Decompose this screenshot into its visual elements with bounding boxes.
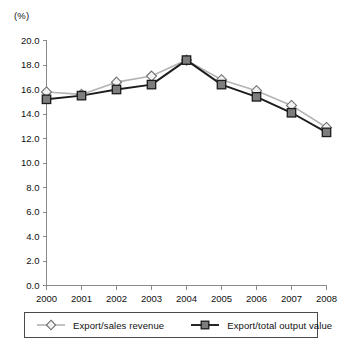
legend-marker-square-icon <box>190 318 220 332</box>
x-tick-label: 2005 <box>211 293 232 304</box>
y-axis-tick-marks <box>43 41 47 286</box>
line-chart-plot: 0.02.04.06.08.010.012.014.016.018.020.0 … <box>0 0 342 351</box>
series-markers-export-total-output-value <box>42 56 330 137</box>
y-tick-label: 10.0 <box>21 157 40 168</box>
y-tick-label: 8.0 <box>26 182 39 193</box>
chart-legend: Export/sales revenue Export/total output… <box>24 312 318 338</box>
y-tick-label: 2.0 <box>26 255 39 266</box>
y-tick-label: 16.0 <box>21 84 40 95</box>
series-line-export-total-output-value <box>47 60 327 132</box>
chart-container: (%) 0.02.04.06.08.010.012.014.016.018.02… <box>0 0 342 351</box>
data-point-marker <box>147 71 157 81</box>
legend-label-export-sales-revenue: Export/sales revenue <box>73 320 164 331</box>
legend-item-export-total-output-value: Export/total output value <box>190 313 332 337</box>
x-tick-label: 2007 <box>281 293 302 304</box>
y-tick-label: 18.0 <box>21 59 40 70</box>
data-point-marker <box>322 128 330 136</box>
x-tick-label: 2001 <box>71 293 92 304</box>
x-tick-label: 2008 <box>316 293 337 304</box>
data-point-marker <box>252 93 260 101</box>
x-tick-label: 2002 <box>106 293 127 304</box>
y-tick-label: 20.0 <box>21 35 40 46</box>
data-point-marker <box>147 80 155 88</box>
y-tick-label: 6.0 <box>26 206 39 217</box>
legend-marker-diamond-icon <box>36 318 66 332</box>
data-point-marker <box>287 109 295 117</box>
x-tick-label: 2000 <box>36 293 57 304</box>
x-axis-tick-marks <box>47 286 327 290</box>
data-point-marker <box>77 91 85 99</box>
data-point-marker <box>182 56 190 64</box>
y-axis-tick-labels: 0.02.04.06.08.010.012.014.016.018.020.0 <box>21 35 40 291</box>
x-tick-label: 2006 <box>246 293 267 304</box>
x-tick-label: 2004 <box>176 293 197 304</box>
y-tick-label: 0.0 <box>26 280 39 291</box>
data-point-marker <box>217 80 225 88</box>
x-tick-label: 2003 <box>141 293 162 304</box>
y-tick-label: 14.0 <box>21 108 40 119</box>
legend-label-export-total-output-value: Export/total output value <box>227 320 332 331</box>
y-tick-label: 4.0 <box>26 231 39 242</box>
y-tick-label: 12.0 <box>21 133 40 144</box>
data-point-marker <box>112 85 120 93</box>
data-point-marker <box>42 95 50 103</box>
x-axis-tick-labels: 200020012002200320042005200620072008 <box>36 293 337 304</box>
legend-item-export-sales-revenue: Export/sales revenue <box>36 313 164 337</box>
